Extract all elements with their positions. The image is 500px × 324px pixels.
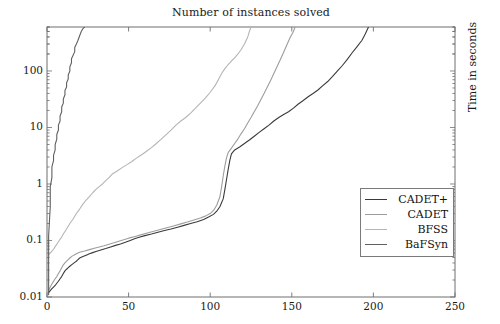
- legend-swatch-bfss: [365, 229, 387, 230]
- legend-swatch-bafsyn: [365, 244, 387, 245]
- plot-canvas: [0, 0, 500, 324]
- y-tick-label: 10: [0, 120, 43, 132]
- legend-item: CADET+: [365, 192, 449, 207]
- chart-title: Number of instances solved: [47, 6, 455, 19]
- legend-swatch-cadet: [365, 214, 387, 215]
- legend-item: BaFSyn: [365, 237, 449, 252]
- legend-label: CADET: [392, 208, 449, 221]
- chart-legend: CADET+ CADET BFSS BaFSyn: [360, 188, 454, 257]
- legend-label: BaFSyn: [392, 238, 449, 251]
- y-tick-label: 100: [0, 64, 43, 76]
- legend-item: BFSS: [365, 222, 449, 237]
- x-tick-label: 0: [27, 300, 67, 312]
- x-tick-label: 150: [272, 300, 312, 312]
- legend-label: CADET+: [392, 193, 449, 206]
- legend-swatch-cadet-plus: [365, 199, 387, 200]
- x-tick-label: 250: [435, 300, 475, 312]
- x-tick-label: 50: [109, 300, 149, 312]
- x-tick-label: 200: [353, 300, 393, 312]
- chart-figure: Number of instances solved Time in secon…: [0, 0, 500, 324]
- legend-label: BFSS: [392, 223, 449, 236]
- y-tick-label: 0.1: [0, 233, 43, 245]
- x-tick-label: 100: [190, 300, 230, 312]
- y-axis-label-right: Time in seconds: [466, 22, 479, 112]
- y-tick-label: 1: [0, 177, 43, 189]
- legend-item: CADET: [365, 207, 449, 222]
